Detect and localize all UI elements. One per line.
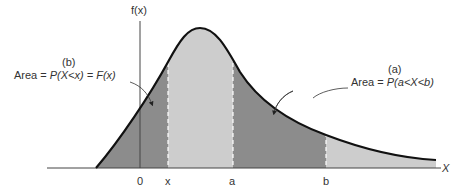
annotation-a-expr: P(a<X<b) xyxy=(387,76,434,88)
y-axis-label: f(x) xyxy=(131,4,147,16)
tick-label-a: a xyxy=(229,175,236,187)
x-axis-label: X xyxy=(441,162,450,174)
region-a-dark xyxy=(233,0,326,168)
annotation-b-tag: (b) xyxy=(62,56,75,68)
annotation-a-leader xyxy=(274,88,348,113)
region-x-to-a-light xyxy=(168,0,233,168)
tick-label-x: x xyxy=(165,175,171,187)
pdf-diagram: f(x) X 0 x a b (b) Area = P(X<x) = F(x) … xyxy=(0,0,462,196)
annotation-a-text: Area = P(a<X<b) xyxy=(351,76,434,88)
tick-label-b: b xyxy=(323,175,329,187)
annotation-b-text: Area = P(X<x) = F(x) xyxy=(14,69,116,81)
annotation-b-expr: P(X<x) = F(x) xyxy=(50,69,116,81)
annotation-a-prefix: Area = xyxy=(351,76,387,88)
density-plot: f(x) X 0 x a b (b) Area = P(X<x) = F(x) … xyxy=(0,0,462,196)
annotation-b-prefix: Area = xyxy=(14,69,50,81)
tick-label-zero: 0 xyxy=(137,175,143,187)
annotation-a-tag: (a) xyxy=(388,63,401,75)
